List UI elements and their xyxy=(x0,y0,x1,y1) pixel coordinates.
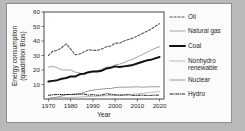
y-tick-label: 50 xyxy=(33,23,40,30)
plot-area-border xyxy=(44,12,164,99)
legend-label-natural-gas: Natural gas xyxy=(188,27,221,35)
y-axis-label-line1: Energy consumption xyxy=(11,26,19,86)
x-tick-label: 1990 xyxy=(86,102,100,109)
chart-panel: 102030405060 197019801990200020102020 Oi… xyxy=(6,3,232,123)
y-tick-label: 60 xyxy=(33,8,40,15)
y-axis-label-line2: (quadrillion Btus) xyxy=(19,31,27,80)
x-tick-label: 1980 xyxy=(64,102,78,109)
x-axis-ticks: 197019801990200020102020 xyxy=(42,99,167,109)
x-tick-label: 2010 xyxy=(130,102,144,109)
y-tick-label: 40 xyxy=(33,37,40,44)
x-tick-label: 2000 xyxy=(108,102,122,109)
energy-consumption-line-chart: 102030405060 197019801990200020102020 Oi… xyxy=(7,4,232,123)
y-tick-label: 30 xyxy=(33,52,40,59)
x-tick-label: 2020 xyxy=(153,102,167,109)
legend-label-coal: Coal xyxy=(188,42,201,49)
y-tick-label: 10 xyxy=(33,81,40,88)
x-axis-label: Year xyxy=(97,111,111,118)
chart-legend: OilNatural gasCoalNonhydrorenewableNucle… xyxy=(170,13,221,98)
x-tick-label: 1970 xyxy=(42,102,56,109)
legend-label-nonhydro-renewable-line2: renewable xyxy=(188,64,218,71)
legend-label-nuclear: Nuclear xyxy=(188,76,211,83)
figure-frame: 102030405060 197019801990200020102020 Oi… xyxy=(0,0,245,131)
legend-label-oil: Oil xyxy=(188,13,196,20)
y-tick-label: 20 xyxy=(33,66,40,73)
y-axis-ticks: 102030405060 xyxy=(33,8,44,88)
legend-label-hydro: Hydro xyxy=(188,90,205,98)
